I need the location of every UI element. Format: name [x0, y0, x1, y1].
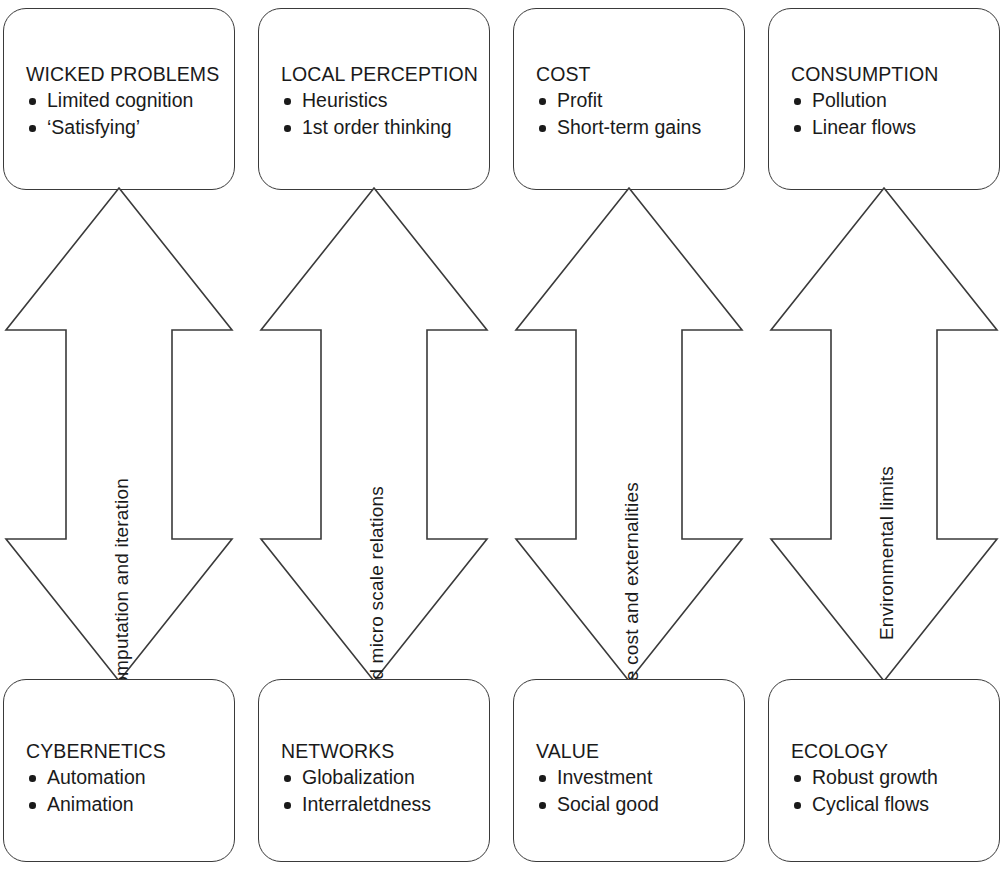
double-headed-arrow-icon: [768, 186, 1000, 683]
double-arrow-column-1: Computation and iteration: [3, 186, 235, 683]
concept-box-local-perception[interactable]: LOCAL PERCEPTION Heuristics 1st order th…: [258, 8, 490, 190]
box-title: VALUE: [536, 738, 734, 764]
concept-box-wicked-problems[interactable]: WICKED PROBLEMS Limited cognition ‘Satis…: [3, 8, 235, 190]
bullet-list: Heuristics 1st order thinking: [281, 87, 479, 141]
list-item: Automation: [26, 764, 224, 791]
concept-box-networks[interactable]: NETWORKS Globalization Interraletdness: [258, 679, 490, 862]
bullet-list: Robust growth Cyclical flows: [791, 764, 989, 818]
box-title: COST: [536, 61, 734, 87]
list-item: Pollution: [791, 87, 989, 114]
list-item: Profit: [536, 87, 734, 114]
diagram-column-1: WICKED PROBLEMS Limited cognition ‘Satis…: [3, 0, 235, 876]
double-headed-arrow-icon: [258, 186, 490, 683]
box-text-block: WICKED PROBLEMS Limited cognition ‘Satis…: [26, 61, 224, 141]
box-text-block: CONSUMPTION Pollution Linear flows: [791, 61, 989, 141]
list-item: Robust growth: [791, 764, 989, 791]
box-text-block: CYBERNETICS Automation Animation: [26, 738, 224, 818]
list-item: Animation: [26, 791, 224, 818]
list-item: Cyclical flows: [791, 791, 989, 818]
double-headed-arrow-icon: [513, 186, 745, 683]
list-item: ‘Satisfying’: [26, 114, 224, 141]
diagram-column-3: COST Profit Short-term gains Life-cycle …: [513, 0, 745, 876]
box-title: NETWORKS: [281, 738, 479, 764]
box-title: LOCAL PERCEPTION: [281, 61, 479, 87]
double-headed-arrow-icon: [3, 186, 235, 683]
list-item: Limited cognition: [26, 87, 224, 114]
concept-box-consumption[interactable]: CONSUMPTION Pollution Linear flows: [768, 8, 1000, 190]
box-title: CYBERNETICS: [26, 738, 224, 764]
double-arrow-column-3: Life-cycle cost and externalities: [513, 186, 745, 683]
box-text-block: NETWORKS Globalization Interraletdness: [281, 738, 479, 818]
bullet-list: Profit Short-term gains: [536, 87, 734, 141]
bullet-list: Pollution Linear flows: [791, 87, 989, 141]
list-item: Interraletdness: [281, 791, 479, 818]
bullet-list: Automation Animation: [26, 764, 224, 818]
box-text-block: LOCAL PERCEPTION Heuristics 1st order th…: [281, 61, 479, 141]
concept-transition-diagram: WICKED PROBLEMS Limited cognition ‘Satis…: [0, 0, 1005, 876]
list-item: Investment: [536, 764, 734, 791]
bullet-list: Investment Social good: [536, 764, 734, 818]
double-arrow-column-4: Environmental limits: [768, 186, 1000, 683]
concept-box-cybernetics[interactable]: CYBERNETICS Automation Animation: [3, 679, 235, 862]
box-text-block: COST Profit Short-term gains: [536, 61, 734, 141]
box-title: ECOLOGY: [791, 738, 989, 764]
diagram-column-4: CONSUMPTION Pollution Linear flows Envir…: [768, 0, 1000, 876]
concept-box-ecology[interactable]: ECOLOGY Robust growth Cyclical flows: [768, 679, 1000, 862]
bullet-list: Globalization Interraletdness: [281, 764, 479, 818]
list-item: Short-term gains: [536, 114, 734, 141]
box-text-block: VALUE Investment Social good: [536, 738, 734, 818]
list-item: Globalization: [281, 764, 479, 791]
box-text-block: ECOLOGY Robust growth Cyclical flows: [791, 738, 989, 818]
bullet-list: Limited cognition ‘Satisfying’: [26, 87, 224, 141]
box-title: WICKED PROBLEMS: [26, 61, 224, 87]
double-arrow-column-2: Macro and micro scale relations: [258, 186, 490, 683]
list-item: Linear flows: [791, 114, 989, 141]
diagram-column-2: LOCAL PERCEPTION Heuristics 1st order th…: [258, 0, 490, 876]
box-title: CONSUMPTION: [791, 61, 989, 87]
list-item: 1st order thinking: [281, 114, 479, 141]
list-item: Social good: [536, 791, 734, 818]
list-item: Heuristics: [281, 87, 479, 114]
concept-box-cost[interactable]: COST Profit Short-term gains: [513, 8, 745, 190]
concept-box-value[interactable]: VALUE Investment Social good: [513, 679, 745, 862]
